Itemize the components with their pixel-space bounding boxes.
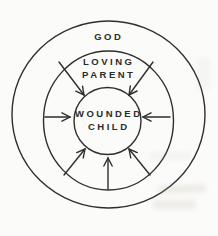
middle-ring-label-loving-parent: LOVING PARENT [0,55,218,82]
outer-ring-label-god: GOD [0,30,218,44]
inner-circle-label-line1: WOUNDED [0,107,218,121]
inner-circle-label-line2: CHILD [0,120,218,134]
diagram-page: GOD LOVING PARENT WOUNDED CHILD [0,0,218,236]
arrow-lower-left-icon [64,149,85,175]
middle-ring-label-line2: PARENT [0,68,218,82]
arrow-lower-right-icon [129,149,150,175]
inner-circle-label-wounded-child: WOUNDED CHILD [0,107,218,134]
middle-ring-label-line1: LOVING [0,55,218,69]
